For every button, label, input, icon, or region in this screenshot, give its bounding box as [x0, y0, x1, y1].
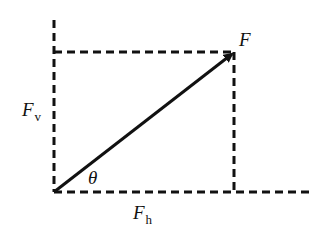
vertical-component-main: F [22, 99, 34, 120]
force-label-text: F [239, 29, 251, 50]
horizontal-component-main: F [133, 202, 145, 223]
horizontal-component-sub: h [146, 212, 153, 227]
force-label: F [239, 30, 251, 49]
angle-label: θ [88, 168, 97, 187]
vertical-component-label: Fv [22, 100, 40, 119]
angle-theta-text: θ [88, 167, 97, 188]
force-diagram: F Fv θ Fh [0, 0, 330, 236]
vertical-component-sub: v [35, 109, 42, 124]
diagram-svg [0, 0, 330, 236]
force-vector-arrow [54, 54, 232, 192]
horizontal-component-label: Fh [133, 203, 151, 222]
